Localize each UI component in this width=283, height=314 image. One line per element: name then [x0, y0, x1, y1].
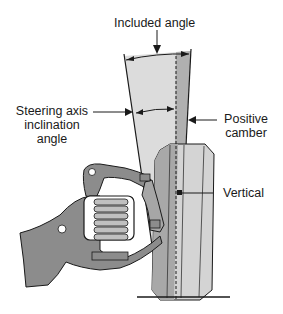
label-steering-axis-line1: Steering axis [12, 104, 92, 118]
label-included-angle: Included angle [114, 16, 195, 30]
steering-geometry-diagram: Included angle Steering axis inclination… [0, 0, 283, 314]
diagram-artwork [0, 0, 283, 314]
label-positive-line1: Positive [218, 112, 274, 126]
label-vertical: Vertical [223, 186, 264, 200]
label-positive-line2: camber [218, 126, 274, 140]
label-steering-axis-line3: angle [12, 132, 92, 146]
label-steering-axis-line2: inclination [12, 118, 92, 132]
